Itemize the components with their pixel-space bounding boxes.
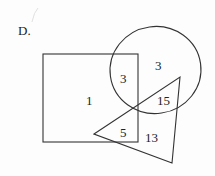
diagram-canvas: D. 1 3 3 15 5 13 xyxy=(0,0,215,176)
venn-diagram: D. 1 3 3 15 5 13 xyxy=(0,0,215,176)
region-circle-triangle: 15 xyxy=(157,93,170,108)
option-label: D. xyxy=(18,23,31,38)
region-circle-only: 3 xyxy=(155,58,162,73)
pen-mark xyxy=(32,8,38,22)
triangle-shape xyxy=(94,77,180,163)
region-triangle-only: 13 xyxy=(145,130,158,145)
region-square-only: 1 xyxy=(86,93,93,108)
region-square-circle: 3 xyxy=(120,71,127,86)
region-square-triangle: 5 xyxy=(120,125,127,140)
